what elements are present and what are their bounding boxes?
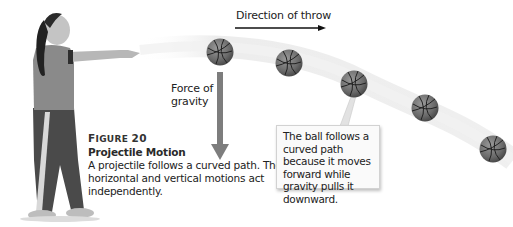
figure-title: Projectile Motion xyxy=(88,146,288,159)
basketball-5 xyxy=(480,136,507,163)
figure-description: A projectile follows a curved path. The … xyxy=(88,159,288,198)
figure-projectile-motion: Direction of throw Force of gravity FIGU… xyxy=(0,0,513,227)
direction-arrow xyxy=(235,25,326,31)
callout-pointer xyxy=(340,94,356,126)
callout-box: The ball follows a curved path because i… xyxy=(276,125,380,189)
basketball-2 xyxy=(276,50,303,77)
basketball-4 xyxy=(412,95,439,122)
force-of-gravity-label: Force of gravity xyxy=(171,82,213,108)
gravity-label-line1: Force of xyxy=(171,82,213,95)
direction-of-throw-label: Direction of throw xyxy=(236,9,331,22)
figure-caption: FIGURE 20 Projectile Motion A projectile… xyxy=(88,132,288,198)
figure-number: FIGURE 20 xyxy=(88,132,288,146)
basketball-3 xyxy=(341,71,368,98)
basketball-1 xyxy=(207,39,234,66)
gravity-label-line2: gravity xyxy=(171,95,213,108)
